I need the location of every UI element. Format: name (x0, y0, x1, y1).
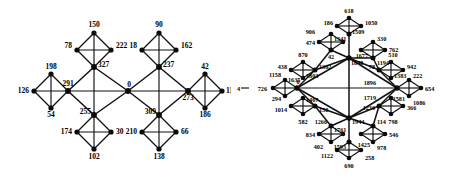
node-label-273: 273 (182, 93, 194, 102)
node-dot (347, 156, 352, 161)
node-dot (371, 56, 376, 61)
node-dot (294, 85, 299, 90)
node-dot (289, 68, 294, 73)
node-dot (301, 60, 306, 65)
node-label-1383: 1383 (394, 72, 406, 79)
node-label-186: 186 (199, 110, 211, 119)
node-dot (173, 129, 178, 134)
node-label-114: 114 (377, 118, 386, 125)
node-dot (91, 64, 97, 70)
node-dot (383, 48, 388, 53)
node-label-198: 198 (45, 62, 57, 71)
node-dot (317, 40, 322, 45)
node-label-870: 870 (298, 51, 307, 58)
node-dot (301, 76, 306, 81)
node-label-291: 291 (62, 79, 74, 88)
node-dot (407, 94, 412, 99)
node-label-18: 18 (130, 41, 138, 50)
node-dot (283, 94, 288, 99)
node-label-327: 327 (98, 60, 110, 69)
node-label-4: 4 (237, 85, 240, 92)
node-dot (31, 88, 36, 93)
node-label-1803: 1803 (306, 72, 318, 79)
node-label-150: 150 (319, 106, 328, 113)
node-dot (156, 112, 162, 118)
node-label-618: 618 (344, 7, 353, 14)
node-label-1761: 1761 (334, 126, 346, 133)
node-label-1341: 1341 (334, 35, 346, 42)
node-dot (389, 76, 394, 81)
node-dot (383, 132, 388, 137)
node-dot (139, 129, 144, 134)
node-label-1122: 1122 (321, 152, 333, 159)
node-label-834: 834 (306, 131, 315, 138)
node-label-102: 102 (88, 152, 100, 161)
node-dot (347, 140, 352, 145)
node-dot (48, 71, 53, 76)
node-label-1050: 1050 (365, 19, 377, 26)
node-label-1848: 1848 (351, 59, 363, 66)
node-label-510: 510 (388, 51, 397, 58)
node-dot (108, 129, 113, 134)
node-dot (301, 96, 306, 101)
node-label-222: 222 (413, 72, 422, 79)
node-dot (329, 140, 334, 145)
node-label-1719: 1719 (364, 94, 376, 101)
node-label-546: 546 (389, 131, 398, 138)
node-dot (156, 146, 161, 151)
node-label-210: 210 (126, 127, 138, 136)
node-label-1158: 1158 (269, 71, 281, 78)
node-dot (173, 47, 178, 52)
node-label-906: 906 (306, 28, 315, 35)
node-label-1266: 1266 (315, 118, 327, 125)
left-graph-svg: 150 78 222 327 90 18 162 237 198 126 291… (0, 0, 231, 190)
node-label-174: 174 (61, 127, 73, 136)
node-label-30: 30 (116, 127, 124, 136)
node-label-654: 654 (425, 85, 434, 92)
node-label-474: 474 (306, 39, 315, 46)
node-label-798: 798 (388, 118, 397, 125)
node-dot (74, 47, 79, 52)
node-label-186: 186 (324, 19, 333, 26)
node-label-0: 0 (296, 78, 299, 85)
node-dot (371, 40, 376, 45)
node-dot (347, 16, 352, 21)
node-label-1677: 1677 (356, 52, 368, 59)
node-label-42: 42 (201, 62, 209, 71)
node-dot (317, 132, 322, 137)
node-dot (91, 146, 96, 151)
node-dot (377, 68, 382, 73)
node-dot (359, 148, 364, 153)
node-label-1194: 1194 (377, 59, 389, 66)
node-label-54: 54 (47, 110, 55, 119)
node-label-330: 330 (377, 35, 386, 42)
node-dot (389, 60, 394, 65)
node-label-0: 0 (127, 80, 131, 89)
node-label-90: 90 (155, 20, 163, 29)
node-label-690: 690 (344, 162, 353, 169)
node-dot (74, 129, 79, 134)
node-label-255: 255 (80, 107, 92, 116)
node-dot (289, 104, 294, 109)
node-dot (271, 86, 276, 91)
node-label-1014: 1014 (275, 106, 287, 113)
node-label-126: 126 (18, 86, 30, 95)
node-label-66: 66 (181, 127, 189, 136)
node-label-402: 402 (314, 143, 323, 150)
node-label-78: 78 (369, 63, 375, 70)
node-dot (301, 112, 306, 117)
node-dot (335, 24, 340, 29)
node-label-726: 726 (258, 85, 267, 92)
node-dot (91, 30, 96, 35)
node-label-942: 942 (407, 63, 416, 70)
node-label-438: 438 (278, 63, 287, 70)
node-label-1302: 1302 (319, 63, 331, 70)
node-label-150: 150 (88, 20, 100, 29)
node-label-1425: 1425 (358, 141, 370, 148)
node-label-222: 222 (116, 41, 128, 50)
node-dot (156, 30, 161, 35)
node-dot (371, 140, 376, 145)
node-label-366: 366 (407, 104, 416, 111)
node-label-1593: 1593 (334, 143, 346, 150)
node-dot (377, 104, 382, 109)
